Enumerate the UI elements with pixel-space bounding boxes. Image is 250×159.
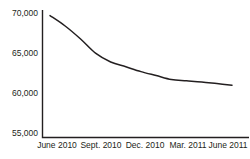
x-tick-label: Dec. 2010 xyxy=(126,140,165,150)
x-tick-label: June 2011 xyxy=(208,140,247,150)
y-tick-label: 55,000 xyxy=(12,128,38,138)
y-axis-tick-labels: 70,000 65,000 60,000 55,000 xyxy=(12,8,38,138)
y-tick-label: 70,000 xyxy=(12,8,38,18)
x-tick-label: Sept. 2010 xyxy=(80,140,121,150)
series-line-value xyxy=(50,16,232,86)
x-tick-label: June 2010 xyxy=(37,140,77,150)
x-axis-tick-labels: June 2010 Sept. 2010 Dec. 2010 Mar. 2011… xyxy=(37,140,248,150)
y-tick-label: 65,000 xyxy=(12,48,38,58)
x-tick-label: Mar. 2011 xyxy=(169,140,206,150)
y-tick-label: 60,000 xyxy=(12,88,38,98)
chart-figure: 70,000 65,000 60,000 55,000 June 2010 Se… xyxy=(0,0,249,159)
axis-lines xyxy=(43,10,250,138)
line-chart: 70,000 65,000 60,000 55,000 June 2010 Se… xyxy=(0,0,249,159)
